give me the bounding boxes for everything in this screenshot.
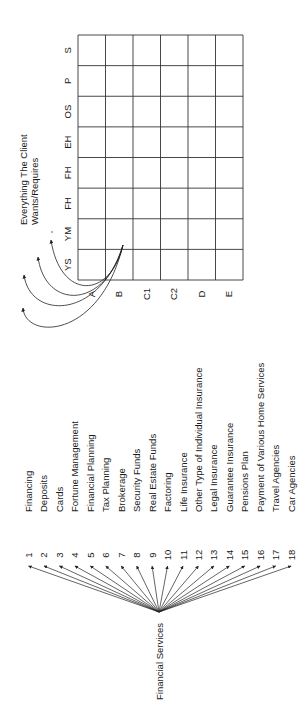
service-label: Brokerage <box>116 468 127 512</box>
service-arrow <box>159 566 168 612</box>
service-label: Legal Insurance <box>208 444 219 512</box>
service-label: Financing <box>23 471 34 512</box>
service-label: Payment of Various Home Services <box>255 363 266 512</box>
service-number: 12 <box>193 550 204 561</box>
service-label: Real Estate Funds <box>147 434 158 512</box>
service-arrow <box>159 566 214 612</box>
grid-column-label: E <box>223 291 234 297</box>
service-arrow <box>59 566 159 612</box>
service-arrow <box>159 566 245 612</box>
diagram-canvas: SPOSEHFHFHYMYS ABC1C2DE Everything The C… <box>0 0 306 714</box>
service-numbers: 123456789101112131415161718 <box>23 550 297 561</box>
service-label: Life Insurance <box>178 452 189 512</box>
service-label: Cards <box>54 486 65 512</box>
grid-row-labels: SPOSEHFHFHYMYS <box>62 47 73 271</box>
service-number: 8 <box>131 552 142 557</box>
service-number: 9 <box>147 552 158 557</box>
service-label: Guarantee Insurance <box>224 423 235 512</box>
service-number: 17 <box>270 550 281 561</box>
client-wants-title-line1: Everything The Client <box>18 134 29 225</box>
grid-row-label: FH <box>62 166 73 179</box>
grid-row-label: S <box>62 47 73 53</box>
grid-column-label: C2 <box>168 288 179 300</box>
service-arrow <box>44 566 159 612</box>
service-number: 15 <box>239 550 250 561</box>
service-label: Factoring <box>162 472 173 512</box>
service-label: Pensions Plan <box>239 451 250 512</box>
service-number: 5 <box>85 552 96 557</box>
grid-column-label: D <box>196 290 207 297</box>
grid-row-label: YS <box>62 258 73 271</box>
service-number: 13 <box>208 550 219 561</box>
grid-row-label: EH <box>62 135 73 148</box>
service-label: Deposits <box>38 475 49 512</box>
service-label: Security Funds <box>131 448 142 512</box>
service-number: 7 <box>116 552 127 557</box>
service-number: 11 <box>178 550 189 560</box>
service-label: Fortune Management <box>69 421 80 512</box>
service-number: 18 <box>286 550 297 561</box>
grid-row-label: P <box>62 78 73 84</box>
service-number: 3 <box>54 552 65 557</box>
grid-column-label: B <box>113 291 124 297</box>
service-number: 2 <box>38 552 49 557</box>
grid-row-label: YM <box>62 227 73 241</box>
curved-arrows <box>23 240 123 327</box>
service-label: Car Agencies <box>286 455 297 512</box>
client-wants-title-line2: Wants/Requires <box>29 158 40 225</box>
service-arrow <box>106 566 159 612</box>
grid-column-labels: ABC1C2DE <box>86 288 235 300</box>
title-dot <box>51 231 53 233</box>
service-label: Travel Agencies <box>270 445 281 512</box>
grid-column-label: C1 <box>141 288 152 300</box>
service-label: Tax Planning <box>100 458 111 512</box>
service-arrow <box>159 566 260 612</box>
service-label: Other Type of Individual Insurance <box>193 367 204 512</box>
curved-arrow-2 <box>38 245 123 295</box>
service-number: 10 <box>162 550 173 561</box>
service-label: Financial Planning <box>85 434 96 512</box>
service-number: 1 <box>23 552 34 557</box>
grid-row-label: OS <box>62 105 73 119</box>
service-arrow <box>75 566 159 612</box>
service-number: 16 <box>255 550 266 561</box>
client-wants-grid <box>78 35 243 280</box>
service-number: 4 <box>69 552 80 557</box>
grid-row-label: FH <box>62 197 73 210</box>
service-labels: FinancingDepositsCardsFortune Management… <box>23 363 297 512</box>
service-number: 6 <box>100 552 111 557</box>
service-arrow <box>29 566 160 612</box>
service-arrow <box>159 566 276 612</box>
service-number: 14 <box>224 550 235 561</box>
financial-services-root-label: Financial Services <box>154 623 165 700</box>
service-arrow <box>159 566 229 612</box>
service-arrows <box>29 566 292 612</box>
